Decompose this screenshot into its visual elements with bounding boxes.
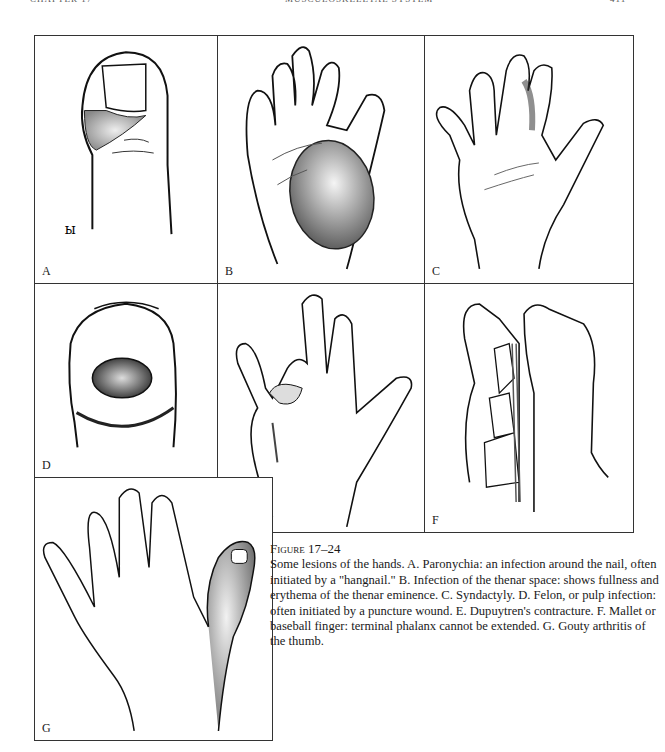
panel-a: ы A <box>34 35 218 284</box>
thenar-infection-hand-illustration <box>218 36 424 283</box>
panel-label-g: G <box>42 721 51 736</box>
panel-g: G <box>34 477 273 741</box>
page-number: 411 <box>610 0 626 4</box>
panel-label-c: C <box>432 264 440 279</box>
panel-d: D <box>34 283 218 478</box>
figure-title: Figure 17–24 <box>270 541 340 556</box>
figure-caption-text: Some lesions of the hands. A. Paronychia… <box>270 557 660 649</box>
panel-b: B <box>217 35 425 284</box>
fingertip-paronychia-illustration: ы <box>35 36 217 283</box>
syndactyly-hand-illustration <box>425 36 633 283</box>
felon-fingertip-illustration <box>35 284 217 477</box>
panel-label-f: F <box>432 513 439 528</box>
panel-label-a: A <box>42 264 51 279</box>
svg-text:ы: ы <box>65 221 76 237</box>
panel-c: C <box>424 35 634 284</box>
panel-label-b: B <box>225 264 233 279</box>
mallet-finger-illustration <box>425 284 633 532</box>
panel-label-d: D <box>42 458 51 473</box>
figure-caption: Figure 17–24 Some lesions of the hands. … <box>270 541 660 650</box>
gouty-thumb-hand-illustration <box>35 478 272 740</box>
panel-f: F <box>424 283 634 533</box>
running-header-center: MUSCULOSKELETAL SYSTEM <box>285 0 433 4</box>
running-header-left: CHAPTER 17 <box>30 0 92 4</box>
